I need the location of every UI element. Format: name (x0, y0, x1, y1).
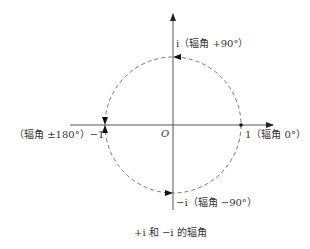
label-neg-one: （辐角 ±180°）−1 (14, 129, 104, 141)
label-neg-i: −i（辐角 −90°） (176, 197, 257, 209)
arrow-neg-one-top-icon (102, 117, 108, 125)
figure-caption: +i 和 −i 的辐角 (134, 227, 207, 239)
label-pos-i: i（辐角 +90°） (176, 38, 248, 50)
point-one (239, 123, 243, 127)
arrow-pos-i-icon (173, 54, 181, 60)
origin-label: O (161, 128, 169, 140)
label-one: 1（辐角 0°） (245, 129, 306, 141)
argand-diagram (0, 0, 310, 249)
arrow-neg-i-icon (165, 190, 173, 196)
